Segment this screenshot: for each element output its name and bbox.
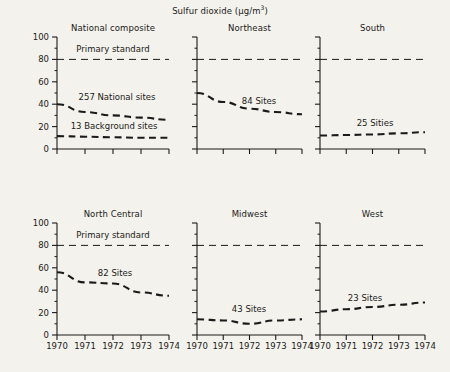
plot-drawing-layer: [0, 0, 450, 372]
panel-axes-north-central: [52, 223, 169, 340]
x-tick-label: 1972: [362, 342, 384, 351]
series-label-23-sites: 23 Sites: [348, 294, 382, 303]
panel-axes-south: [315, 37, 425, 154]
y-tick-label: 20: [38, 308, 49, 317]
primary-standard-label-national: Primary standard: [76, 45, 149, 54]
y-axis-tick-labels-row-1: 020406080100: [0, 0, 49, 372]
y-tick-label: 60: [38, 263, 49, 272]
x-tick-label: 1970: [46, 342, 68, 351]
series-label-25-sities: 25 Sities: [357, 119, 394, 128]
series-line-43-sites: [197, 319, 302, 323]
series-line-257-national-sites: [57, 104, 169, 120]
panel-axes-west: [315, 223, 425, 340]
series-label-84-sites: 84 Sites: [242, 97, 276, 106]
series-label-13-background-sites: 13 Background sites: [71, 122, 158, 131]
y-tick-label: 0: [44, 331, 49, 340]
series-label-82-sites: 82 Sites: [98, 269, 132, 278]
series-label-257-national-sites: 257 National sites: [79, 93, 156, 102]
series-line-23-sites: [320, 303, 425, 312]
x-tick-label: 1970: [309, 342, 331, 351]
primary-standard-label-north-central: Primary standard: [76, 231, 149, 240]
x-tick-label: 1973: [265, 342, 287, 351]
x-tick-label: 1972: [239, 342, 261, 351]
x-tick-label: 1974: [414, 342, 436, 351]
x-tick-label: 1973: [388, 342, 410, 351]
series-label-43-sites: 43 Sites: [232, 305, 266, 314]
panel-axes-midwest: [192, 223, 302, 340]
series-line-25-sities: [320, 132, 425, 135]
x-tick-label: 1971: [212, 342, 234, 351]
x-tick-label: 1974: [158, 342, 180, 351]
series-line-13-background-sites: [57, 136, 169, 138]
x-tick-label: 1971: [335, 342, 357, 351]
y-tick-label: 100: [33, 219, 49, 228]
y-tick-label: 80: [38, 241, 49, 250]
x-tick-label: 1973: [130, 342, 152, 351]
x-tick-label: 1970: [186, 342, 208, 351]
x-tick-label: 1971: [74, 342, 96, 351]
y-tick-label: 40: [38, 286, 49, 295]
x-tick-label: 1972: [102, 342, 124, 351]
sulfur-dioxide-trend-figure: Sulfur dioxide (µg/m3) National composit…: [0, 0, 450, 372]
